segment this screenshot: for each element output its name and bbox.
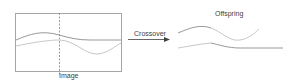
parent-curve-a [16, 33, 121, 40]
parent-curve-b [16, 40, 121, 54]
diagram-canvas [0, 0, 299, 82]
crossover-diagram: Image Crossover Offspring [0, 0, 299, 82]
offspring-b-right [211, 43, 283, 48]
offspring-b-left [178, 43, 211, 48]
offspring-a-right [211, 28, 259, 40]
crossover-label: Crossover [134, 30, 166, 37]
offspring-label: Offspring [215, 10, 243, 17]
arrow-head-icon [164, 37, 170, 42]
offspring-a-left [178, 26, 211, 33]
image-label: Image [59, 72, 78, 79]
